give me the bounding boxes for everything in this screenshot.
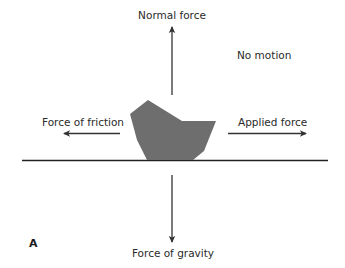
normal-force-label: Normal force [138, 10, 206, 21]
friction-force-label: Force of friction [42, 117, 124, 128]
object-block [130, 100, 216, 160]
force-diagram [0, 0, 345, 268]
applied-force-label: Applied force [238, 117, 307, 128]
gravity-force-label: Force of gravity [132, 248, 214, 259]
state-label: No motion [237, 50, 291, 61]
panel-label: A [29, 238, 38, 249]
